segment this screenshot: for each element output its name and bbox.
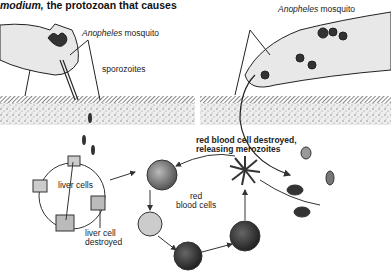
liver-cell-destroyed-label: liver celldestroyed <box>85 229 122 247</box>
diagram-title: modium, the protozoan that causes <box>0 0 177 11</box>
label-italic: Anopheles <box>278 4 318 14</box>
liver-cycle <box>33 156 135 231</box>
skin-surface <box>0 96 391 125</box>
label-line: destroyed <box>85 238 122 247</box>
red-blood-cells-label: redblood cells <box>176 192 216 210</box>
label-rest: mosquito <box>122 28 159 38</box>
liver-cells-label: liver cells <box>58 181 93 190</box>
label-rest: mosquito <box>318 4 355 14</box>
sporozoites-label: sporozoites <box>102 65 145 74</box>
label-line: blood cells <box>176 201 216 210</box>
left-mosquito-label: Anopheles mosquito <box>82 29 159 38</box>
title-rest: the protozoan that causes <box>44 0 177 11</box>
label-italic: Anopheles <box>82 28 122 38</box>
merozoites-burst <box>230 156 260 185</box>
right-mosquito-label: Anopheles mosquito <box>278 5 355 14</box>
blood-cycle <box>138 147 334 270</box>
label-line: releasing merozoites <box>196 145 297 154</box>
rbc-destroyed-label: red blood cell destroyed,releasing meroz… <box>196 136 297 154</box>
title-italic: modium, <box>0 0 44 11</box>
